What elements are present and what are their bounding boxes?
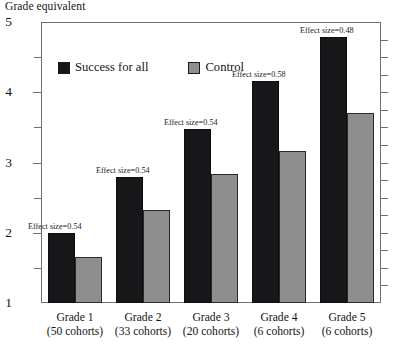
bar-chart: Grade equivalent 12345 Grade 1(50 cohort… <box>0 0 396 352</box>
y-axis-tick-mark-left <box>34 268 41 269</box>
bar-success-for-all <box>320 37 347 303</box>
y-axis-tick-mark-left <box>34 127 41 128</box>
y-axis-tick-mark-right <box>381 127 388 128</box>
y-axis-tick-label: 1 <box>0 296 12 310</box>
legend-item-control: Control <box>188 60 243 75</box>
y-axis-tick-label: 5 <box>0 15 12 29</box>
y-axis-tick-mark-right <box>381 57 388 58</box>
bar-success-for-all <box>184 129 211 303</box>
bar-success-for-all <box>252 81 279 303</box>
chart-title: Grade equivalent <box>5 0 85 12</box>
bar-success-for-all <box>116 177 143 303</box>
bar-control <box>279 151 306 303</box>
chart-legend: Success for all Control <box>58 60 244 75</box>
y-axis-tick-mark-right <box>381 110 388 111</box>
y-axis-tick-label: 4 <box>0 85 12 99</box>
y-axis-tick-mark-left <box>33 163 41 164</box>
legend-label-control: Control <box>205 60 243 75</box>
x-axis-category-label: Grade 4(6 cohorts) <box>245 311 313 338</box>
x-axis-category-label: Grade 5(6 cohorts) <box>313 311 381 338</box>
x-axis-category-label: Grade 3(20 cohorts) <box>177 311 245 338</box>
category-sublabel: (20 cohorts) <box>177 325 245 339</box>
category-sublabel: (6 cohorts) <box>313 325 381 339</box>
category-name: Grade 3 <box>192 311 229 324</box>
x-axis-category-label: Grade 1(50 cohorts) <box>41 311 109 338</box>
bar-control <box>211 174 238 303</box>
category-sublabel: (6 cohorts) <box>245 325 313 339</box>
legend-swatch-success-for-all <box>58 62 70 74</box>
legend-label-success-for-all: Success for all <box>75 60 148 75</box>
y-axis-tick-label: 3 <box>0 156 12 170</box>
y-axis-tick-mark-right <box>381 180 388 181</box>
bar-success-for-all <box>48 233 75 303</box>
y-axis-tick-label: 2 <box>0 226 12 240</box>
y-axis-tick-mark-left <box>33 233 41 234</box>
y-axis-tick-mark-right <box>381 250 388 251</box>
category-name: Grade 4 <box>260 311 297 324</box>
bar-control <box>347 113 374 303</box>
y-axis-tick-mark-right <box>381 92 388 93</box>
category-name: Grade 5 <box>328 311 365 324</box>
y-axis-tick-mark-right <box>381 163 388 164</box>
effect-size-annotation: Effect size=0.54 <box>96 166 150 175</box>
y-axis-tick-mark-right <box>381 285 388 286</box>
effect-size-annotation: Effect size=0.54 <box>28 222 82 231</box>
y-axis-tick-mark-right <box>381 268 388 269</box>
y-axis-tick-mark-left <box>34 57 41 58</box>
y-axis-tick-mark-right <box>381 233 388 234</box>
y-axis-tick-mark-left <box>33 92 41 93</box>
effect-size-annotation: Effect size=0.54 <box>164 118 218 127</box>
category-name: Grade 1 <box>56 311 93 324</box>
y-axis-tick-mark-right <box>381 215 388 216</box>
y-axis-tick-mark-right <box>381 145 388 146</box>
legend-swatch-control <box>188 62 200 74</box>
category-sublabel: (33 cohorts) <box>109 325 177 339</box>
y-axis-tick-mark-left <box>34 198 41 199</box>
x-axis-category-label: Grade 2(33 cohorts) <box>109 311 177 338</box>
bar-control <box>143 210 170 303</box>
category-name: Grade 2 <box>124 311 161 324</box>
legend-item-success-for-all: Success for all <box>58 60 148 75</box>
bar-control <box>75 257 102 303</box>
effect-size-annotation: Effect size=0.48 <box>300 26 354 35</box>
y-axis-tick-mark-right <box>381 40 388 41</box>
category-sublabel: (50 cohorts) <box>41 325 109 339</box>
y-axis-tick-mark-right <box>381 75 388 76</box>
y-axis-tick-mark-right <box>381 198 388 199</box>
